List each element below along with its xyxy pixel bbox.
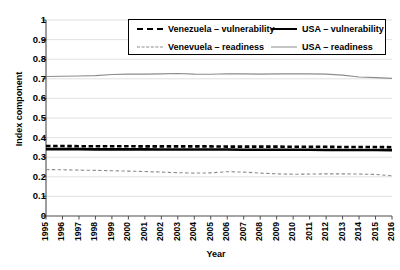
x-axis-tick-label: 2005 — [206, 222, 215, 241]
chart-legend: Venezuela – vulnerability USA – vulnerab… — [128, 19, 386, 55]
x-axis-tick-label: 1998 — [90, 222, 99, 241]
legend-item-venezuela-vulnerability: Venezuela – vulnerability — [131, 20, 275, 38]
x-axis-tick-label: 2006 — [222, 222, 231, 241]
x-axis-tick-label: 1997 — [74, 222, 83, 241]
legend-label: USA – readiness — [302, 42, 373, 52]
x-axis-tick-label: 2013 — [338, 222, 347, 241]
x-axis-tick-label: 2004 — [189, 222, 198, 241]
x-axis-tick-label: 2012 — [321, 222, 330, 241]
chart-container: 10.90.80.70.60.50.40.30.20.10 1995199619… — [0, 0, 400, 270]
x-axis-tick-label: 2002 — [156, 222, 165, 241]
legend-label: USA – vulnerability — [302, 24, 384, 34]
legend-swatch-solid-thin-icon — [271, 42, 297, 52]
x-axis-tick-label: 2007 — [239, 222, 248, 241]
y-axis-title: Index component — [14, 64, 24, 154]
x-axis-tick-label: 2016 — [387, 222, 396, 241]
legend-swatch-solid-thick-icon — [271, 24, 297, 34]
x-axis-tick-label: 2003 — [173, 222, 182, 241]
x-axis-tick-label: 1999 — [107, 222, 116, 241]
legend-item-usa-vulnerability: USA – vulnerability — [265, 20, 384, 38]
legend-item-venezuela-readiness: Venevuela – readiness — [131, 38, 264, 56]
x-axis-tick-label: 2000 — [123, 222, 132, 241]
x-axis-tick-label: 2011 — [305, 222, 314, 240]
legend-label: Venevuela – readiness — [168, 42, 264, 52]
legend-item-usa-readiness: USA – readiness — [265, 38, 373, 56]
x-axis-tick-label: 1996 — [57, 222, 66, 241]
x-axis-tick-label: 2008 — [255, 222, 264, 241]
x-axis-tick-label: 2009 — [272, 222, 281, 241]
x-axis-tick-label: 2001 — [140, 222, 149, 241]
legend-label: Venezuela – vulnerability — [168, 24, 275, 34]
legend-row: Venezuela – vulnerability USA – vulnerab… — [129, 20, 387, 38]
x-axis-tick-label: 2015 — [371, 222, 380, 241]
x-axis-tick-label: 1995 — [41, 222, 50, 241]
x-axis-title: Year — [40, 249, 392, 259]
legend-row: Venevuela – readiness USA – readiness — [129, 38, 387, 56]
x-axis-tick-label: 2010 — [288, 222, 297, 241]
legend-swatch-dashed-thick-icon — [137, 24, 163, 34]
x-axis-tick-label: 2014 — [354, 222, 363, 241]
legend-swatch-dashed-thin-icon — [137, 42, 163, 52]
